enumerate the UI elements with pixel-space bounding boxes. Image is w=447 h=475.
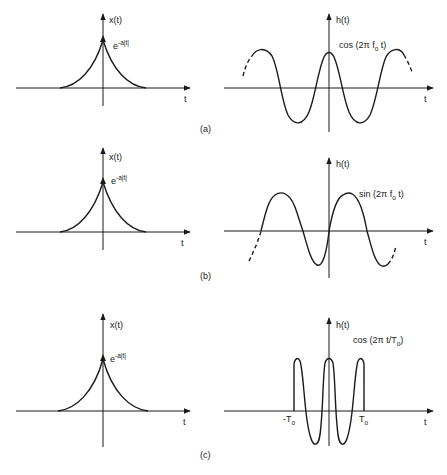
sine-curve — [261, 193, 388, 266]
tick-label-neg-T0: -To — [283, 414, 296, 426]
peak-arrow-icon — [100, 35, 106, 42]
panel-c-left-plot: x(t) t e-a|t| — [16, 314, 190, 447]
y-axis-label: x(t) — [109, 15, 122, 25]
cosine-dashed-extension-right — [404, 55, 412, 72]
peak-arrow-icon — [100, 354, 106, 361]
panel-a-left-plot: x(t) t e-a|t| — [16, 14, 190, 106]
panel-caption: (c) — [200, 450, 211, 460]
curve-label: e-a|t| — [111, 174, 127, 186]
curve-label: sin (2π fo t) — [359, 189, 404, 201]
x-axis-label: t — [424, 94, 427, 104]
panel-c-right-plot: h(t) t cos (2π t/To) -To To — [224, 318, 433, 446]
sine-dashed-extension-right — [388, 246, 396, 264]
panel-a-right-plot: h(t) t cos (2π fo t) — [224, 14, 433, 132]
curve-label: cos (2π fo t) — [339, 40, 386, 52]
panel-a: x(t) t e-a|t| h(t) t cos (2π fo t) (a) — [16, 14, 433, 134]
x-axis-label: t — [424, 417, 427, 427]
curve-label: e-a|t| — [110, 352, 126, 364]
x-axis-label: t — [183, 417, 186, 427]
y-axis-label: h(t) — [336, 159, 350, 169]
sine-dashed-extension-left — [249, 231, 261, 261]
tick-label-pos-T0: To — [359, 414, 369, 426]
curve-label: e-a|t| — [113, 39, 129, 51]
x-axis-label: t — [424, 237, 427, 247]
y-axis-label: h(t) — [336, 15, 350, 25]
y-axis-label: x(t) — [110, 320, 123, 330]
panel-b-left-plot: x(t) t e-a|t| — [16, 148, 190, 250]
y-axis-label: x(t) — [109, 152, 122, 162]
panel-b: x(t) t e-a|t| h(t) t sin (2π fo t) (b) — [16, 148, 433, 281]
panel-c: x(t) t e-a|t| h(t) t cos (2π t/To) -To T… — [16, 314, 433, 460]
curve-label: cos (2π t/To) — [353, 335, 403, 347]
figure-canvas: x(t) t e-a|t| h(t) t cos (2π fo t) (a) x… — [0, 0, 447, 475]
panel-b-right-plot: h(t) t sin (2π fo t) — [224, 158, 433, 278]
cosine-curve — [252, 50, 404, 123]
panel-caption: (b) — [200, 271, 211, 281]
peak-arrow-icon — [100, 177, 106, 184]
panel-caption: (a) — [200, 124, 211, 134]
x-axis-label: t — [184, 94, 187, 104]
x-axis-label: t — [181, 238, 184, 248]
y-axis-label: h(t) — [336, 320, 350, 330]
cosine-dashed-extension-left — [243, 56, 252, 76]
